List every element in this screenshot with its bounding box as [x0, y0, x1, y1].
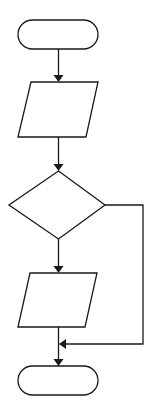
- edge-input2-to-end: [54, 327, 64, 366]
- edge-start-to-input1: [54, 49, 64, 82]
- arrowhead-icon: [54, 164, 64, 171]
- flowchart-canvas: [0, 0, 151, 417]
- input-output-parallelogram-2: [18, 273, 97, 327]
- arrowhead-icon: [54, 75, 64, 82]
- start-terminator: [18, 20, 98, 49]
- input-output-parallelogram-1: [18, 82, 98, 137]
- arrowhead-icon: [54, 266, 64, 273]
- arrowhead-icon: [54, 359, 64, 366]
- arrowhead-icon: [59, 339, 66, 349]
- end-terminator: [18, 366, 98, 395]
- edge-input1-to-decision: [54, 137, 64, 171]
- edge-decision-to-input2: [54, 239, 64, 273]
- decision-diamond: [9, 171, 105, 239]
